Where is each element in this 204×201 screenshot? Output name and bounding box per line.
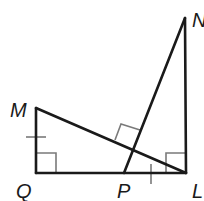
label-q: Q (16, 180, 32, 201)
label-l: L (192, 180, 203, 201)
right-angle-mark-q (36, 153, 56, 173)
segment-ml (36, 108, 186, 173)
geometry-diagram: M Q P L N (0, 0, 204, 201)
right-angle-mark-intersection (115, 124, 140, 140)
label-m: M (10, 99, 27, 121)
segment-nl (185, 18, 186, 173)
label-p: P (117, 180, 131, 201)
label-n: N (192, 9, 204, 31)
segment-np (124, 18, 185, 173)
